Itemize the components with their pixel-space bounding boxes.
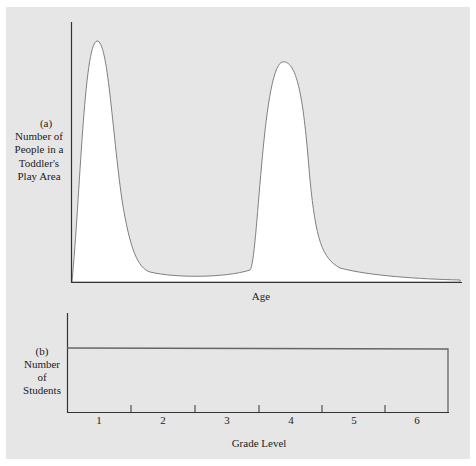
x-tick-label-2: 2 (153, 414, 173, 427)
x-tick-label-4: 4 (281, 414, 301, 427)
x-tick-label-3: 3 (217, 414, 237, 427)
x-ticks-b (131, 405, 385, 412)
y-axis-label-a-line1: Number of (4, 130, 74, 143)
x-axis-label-b: Grade Level (219, 437, 299, 450)
y-axis-label-a-line2: People in a (4, 143, 74, 156)
panel-b-label: (b) (14, 345, 70, 358)
y-axis-label-a-line4: Play Area (4, 170, 74, 183)
panel-a-label: (a) (18, 117, 74, 130)
x-axis-label-a: Age (236, 290, 286, 303)
uniform-distribution-line (67, 348, 448, 412)
x-tick-label-6: 6 (407, 414, 427, 427)
charts-canvas (0, 0, 476, 466)
x-tick-label-1: 1 (89, 414, 109, 427)
x-tick-label-5: 5 (344, 414, 364, 427)
chart-b (67, 313, 449, 413)
y-axis-label-b-line3: Students (14, 384, 70, 397)
bimodal-area (72, 41, 460, 282)
chart-a (71, 22, 462, 283)
y-axis-label-b-line2: of (14, 371, 70, 384)
y-axis-label-a-line3: Toddler's (4, 157, 74, 170)
y-axis-label-b-line1: Number (14, 358, 70, 371)
